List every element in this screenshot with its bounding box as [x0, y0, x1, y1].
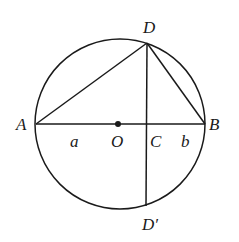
- chord-dd-prime: [146, 43, 147, 206]
- segment-ad: [36, 43, 147, 124]
- segment-db: [147, 43, 205, 124]
- diagram-svg: D A B O C a b D′: [0, 0, 239, 242]
- label-b: B: [209, 115, 220, 134]
- label-b-length: b: [181, 132, 190, 151]
- geometry-figure: D A B O C a b D′: [0, 0, 239, 242]
- label-d-prime: D′: [141, 215, 158, 234]
- label-o: O: [111, 132, 123, 151]
- label-d: D: [142, 18, 156, 37]
- label-c: C: [150, 132, 162, 151]
- label-a-length: a: [70, 132, 79, 151]
- center-point-o: [115, 121, 121, 127]
- label-a: A: [15, 115, 27, 134]
